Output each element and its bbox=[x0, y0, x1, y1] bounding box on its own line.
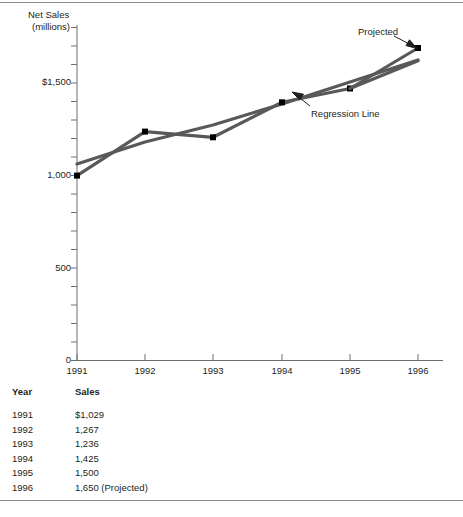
x-tick-label-1992: 1992 bbox=[115, 366, 175, 376]
x-tick-label-1994: 1994 bbox=[252, 366, 312, 376]
cell-sales: 1,650 (Projected) bbox=[75, 481, 292, 496]
y-tick-label-0: 0 bbox=[23, 355, 71, 365]
projected-annotation-arrow bbox=[394, 36, 417, 49]
projected-segment bbox=[350, 48, 418, 89]
figure-page: Net Sales (millions) bbox=[0, 0, 463, 517]
table-row: 1995 1,500 bbox=[12, 466, 292, 481]
column-header-sales: Sales bbox=[75, 386, 292, 408]
cell-sales: $1,029 bbox=[75, 408, 292, 423]
table-row: 1991 $1,029 bbox=[12, 408, 292, 423]
table-row: 1996 1,650 (Projected) bbox=[12, 481, 292, 496]
table-row: 1992 1,267 bbox=[12, 423, 292, 438]
cell-year: 1995 bbox=[12, 466, 75, 481]
x-tick-label-1995: 1995 bbox=[320, 366, 380, 376]
regression-annotation-label: Regression Line bbox=[311, 108, 380, 119]
x-tick-label-1993: 1993 bbox=[183, 366, 243, 376]
sales-data-table: Year Sales 1991 $1,029 1992 1,267 1993 1… bbox=[12, 386, 292, 495]
x-axis-ticks bbox=[77, 354, 418, 361]
cell-year: 1993 bbox=[12, 437, 75, 452]
table-row: 1994 1,425 bbox=[12, 452, 292, 467]
x-tick-label-1996: 1996 bbox=[388, 366, 448, 376]
column-header-year: Year bbox=[12, 386, 75, 408]
y-tick-label-500: 500 bbox=[23, 263, 71, 273]
bottom-divider-rule bbox=[0, 500, 463, 501]
projected-annotation-label: Projected bbox=[358, 26, 398, 37]
y-axis-minor-ticks bbox=[71, 28, 77, 361]
cell-sales: 1,425 bbox=[75, 452, 292, 467]
cell-sales: 1,236 bbox=[75, 437, 292, 452]
chart-canvas bbox=[0, 0, 463, 390]
cell-sales: 1,267 bbox=[75, 423, 292, 438]
cell-year: 1996 bbox=[12, 481, 75, 496]
x-tick-label-1991: 1991 bbox=[47, 366, 107, 376]
cell-year: 1992 bbox=[12, 423, 75, 438]
y-tick-label-1000: 1,000 bbox=[23, 170, 71, 180]
table-row: 1993 1,236 bbox=[12, 437, 292, 452]
cell-year: 1991 bbox=[12, 408, 75, 423]
table-header-row: Year Sales bbox=[12, 386, 292, 408]
line-chart: Net Sales (millions) bbox=[0, 0, 463, 390]
y-tick-label-1500: $1,500 bbox=[23, 77, 71, 87]
cell-year: 1994 bbox=[12, 452, 75, 467]
cell-sales: 1,500 bbox=[75, 466, 292, 481]
